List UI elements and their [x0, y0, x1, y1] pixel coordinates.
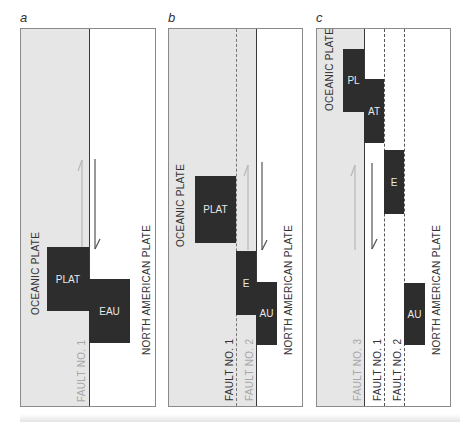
block-e: E: [384, 150, 404, 214]
block-at: AT: [364, 79, 384, 143]
block-e: E: [236, 251, 256, 315]
motion-arrow-down-icon: [259, 162, 269, 252]
panel-c: PL AT E AU OCEANIC PLATE FAULT NO. 3 FAU…: [316, 28, 451, 407]
fault-line-1: [89, 29, 90, 406]
block-au: AU: [404, 283, 425, 345]
block-au: AU: [256, 282, 277, 345]
cropped-caption-strip: [20, 414, 460, 422]
panel-c-letter: c: [316, 10, 323, 25]
panel-a: PLAT EAU OCEANIC PLATE FAULT NO. 1 NORTH…: [20, 28, 156, 407]
motion-arrow-down-icon: [369, 163, 379, 253]
panel-b-letter: b: [168, 10, 175, 25]
block-pl: PL: [343, 49, 364, 112]
panel-a-letter: a: [20, 10, 27, 25]
fault-line-2: [256, 29, 257, 406]
block-plat: PLAT: [47, 247, 89, 311]
motion-arrow-up-icon: [350, 162, 360, 250]
block-eau: EAU: [89, 279, 130, 343]
oceanic-plate-label: OCEANIC PLATE: [30, 232, 41, 315]
oceanic-plate-label: OCEANIC PLATE: [175, 164, 186, 247]
fault-no-2-label: FAULT NO. 2: [244, 339, 255, 401]
block-plat: PLAT: [195, 176, 236, 243]
panel-b: PLAT E AU OCEANIC PLATE FAULT NO. 1 FAUL…: [168, 28, 303, 407]
fault-line-2: [404, 29, 405, 406]
fault-no-2-label: FAULT NO. 2: [392, 339, 403, 401]
oceanic-plate-label: OCEANIC PLATE: [324, 28, 335, 111]
fault-no-1-label: FAULT NO. 1: [224, 339, 235, 401]
fault-line-1: [384, 29, 385, 406]
north-american-plate-label: NORTH AMERICAN PLATE: [283, 225, 294, 355]
fault-line-1: [236, 29, 237, 406]
fault-no-3-label: FAULT NO. 3: [352, 339, 363, 401]
motion-arrow-down-icon: [92, 159, 102, 251]
fault-no-1-label: FAULT NO. 1: [76, 340, 87, 402]
motion-arrow-up-icon: [77, 157, 87, 252]
north-american-plate-label: NORTH AMERICAN PLATE: [431, 225, 442, 355]
north-american-plate-label: NORTH AMERICAN PLATE: [141, 225, 152, 355]
fault-no-1-label: FAULT NO. 1: [372, 339, 383, 401]
motion-arrow-up-icon: [243, 162, 253, 250]
